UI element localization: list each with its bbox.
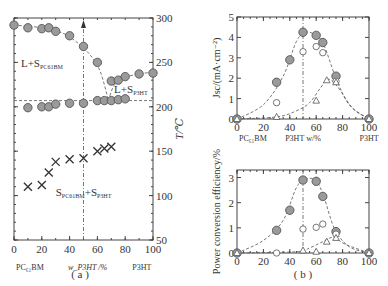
figure: 02040608010050100150200250300T/℃PC₆₁BMw_…	[0, 0, 388, 286]
data-point-filled-circle	[121, 72, 129, 80]
data-point-filled-circle	[93, 58, 101, 66]
panel-b-jsc-plot: 020406080100012345PC₆₁BMP3HT w/%P3HTJsc/…	[211, 11, 379, 143]
x-tick-label: 40	[284, 121, 296, 133]
data-point-cross	[100, 145, 108, 153]
x-tick-label: 80	[337, 121, 349, 133]
y-tick-label: 50	[156, 234, 168, 246]
data-point-filled-circle	[79, 99, 87, 107]
data-point-filled-circle	[272, 226, 280, 234]
data-point-cross	[24, 183, 32, 191]
data-point-filled-circle	[10, 21, 18, 29]
data-point-triangle	[323, 238, 330, 244]
y-tick-label: 3	[229, 52, 235, 64]
data-point-open-circle	[300, 48, 306, 54]
x-tick-label: 20	[258, 121, 270, 133]
x-tick-label: 80	[337, 255, 349, 267]
y-axis-label: Power conversion efficiency/%	[211, 149, 222, 274]
x-tick-label: 40	[284, 255, 296, 267]
data-point-open-circle	[320, 50, 326, 56]
y-axis-label: T/℃	[173, 118, 185, 140]
region-label-solid-solid: SPC61BM+SP3HT	[56, 186, 112, 199]
y-tick-label: 1	[229, 93, 235, 105]
data-point-filled-circle	[24, 24, 32, 32]
data-point-filled-circle	[135, 70, 143, 78]
x-tick-label: 20	[36, 243, 48, 255]
region-label-liquid-p3ht: L+SP3HT	[114, 83, 148, 96]
y-tick-label: 3	[229, 172, 235, 184]
data-point-filled-circle	[319, 38, 327, 46]
x-label-left: PC₆₁BM	[16, 263, 44, 272]
data-point-filled-circle	[286, 56, 294, 64]
x-tick-label: 60	[311, 255, 323, 267]
data-point-cross	[66, 155, 74, 163]
data-point-triangle	[313, 248, 320, 254]
data-point-filled-circle	[149, 69, 157, 77]
x-tick-label: 80	[120, 243, 132, 255]
y-tick-label: 300	[156, 12, 173, 24]
x-axis-label: P3HT w/%	[285, 134, 321, 143]
data-point-filled-circle	[65, 99, 73, 107]
x-label-right: P3HT	[132, 263, 151, 272]
data-point-filled-circle	[121, 95, 129, 103]
x-tick-label: 60	[311, 121, 323, 133]
data-point-filled-circle	[24, 103, 32, 111]
panel-b-pce-plot: 0204060801000123Power conversion efficie…	[211, 149, 378, 274]
y-tick-label: 1	[229, 222, 235, 234]
data-point-filled-circle	[65, 32, 73, 40]
y-tick-label: 250	[156, 56, 173, 68]
caption-b: ( b )	[294, 268, 313, 281]
data-point-cross	[38, 181, 46, 189]
arrow-up-icon	[81, 20, 86, 28]
data-point-filled-circle	[312, 31, 320, 39]
data-point-open-circle	[313, 43, 319, 49]
y-tick-label: 150	[156, 145, 173, 157]
caption-a: ( a )	[71, 268, 89, 281]
x-tick-label: 0	[11, 243, 17, 255]
data-point-cross	[52, 158, 60, 166]
y-axis-label: Jsc/(mA·cm⁻²)	[211, 38, 223, 98]
data-point-filled-circle	[286, 206, 294, 214]
y-tick-label: 2	[229, 72, 235, 84]
y-tick-label: 5	[229, 11, 235, 23]
y-tick-label: 4	[229, 31, 235, 43]
y-tick-label: 2	[229, 197, 235, 209]
data-point-filled-circle	[272, 78, 280, 86]
data-point-filled-circle	[79, 42, 87, 50]
data-point-filled-circle	[52, 27, 60, 35]
data-point-open-circle	[273, 99, 279, 105]
data-point-open-circle	[320, 221, 326, 227]
x-tick-label: 40	[64, 243, 76, 255]
data-point-filled-circle	[319, 192, 327, 200]
x-label-left: PC₆₁BM	[239, 134, 267, 143]
panel-a-phase-diagram: 02040608010050100150200250300T/℃PC₆₁BMw_…	[10, 12, 185, 272]
data-point-filled-circle	[52, 100, 60, 108]
data-point-cross	[45, 169, 53, 177]
x-tick-label: 20	[258, 255, 270, 267]
y-tick-label: 100	[156, 190, 173, 202]
y-tick-label: 200	[156, 101, 173, 113]
data-point-open-circle	[300, 226, 306, 232]
data-point-cross	[93, 147, 101, 155]
data-point-filled-circle	[299, 28, 307, 36]
data-point-triangle	[323, 77, 330, 83]
data-point-triangle	[300, 247, 307, 253]
data-point-open-circle	[313, 224, 319, 230]
data-point-cross	[107, 143, 115, 151]
x-label-right: P3HT	[359, 134, 378, 143]
x-tick-label: 60	[92, 243, 104, 255]
data-point-open-circle	[273, 250, 279, 256]
data-point-filled-circle	[312, 177, 320, 185]
data-point-filled-circle	[299, 176, 307, 184]
region-label-liquid-pcbm: L+SPC61BM	[21, 57, 64, 70]
